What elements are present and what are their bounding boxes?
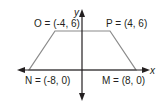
y-axis-label: y <box>73 7 80 18</box>
coordinate-plane: x y O = (-4, 6) P = (4, 6) N = (-8, 0) M… <box>0 0 161 111</box>
vertex-label-p: P = (4, 6) <box>106 18 147 29</box>
y-axis-up-arrow-icon <box>79 9 85 17</box>
vertex-label-n: N = (-8, 0) <box>25 75 70 86</box>
x-axis-label: x <box>149 65 156 76</box>
vertex-label-o: O = (-4, 6) <box>34 18 80 29</box>
vertex-label-m: M = (8, 0) <box>102 75 145 86</box>
y-axis-down-arrow-icon <box>79 93 85 101</box>
x-axis-right-arrow-icon <box>142 67 150 73</box>
x-axis-left-arrow-icon <box>17 67 25 73</box>
